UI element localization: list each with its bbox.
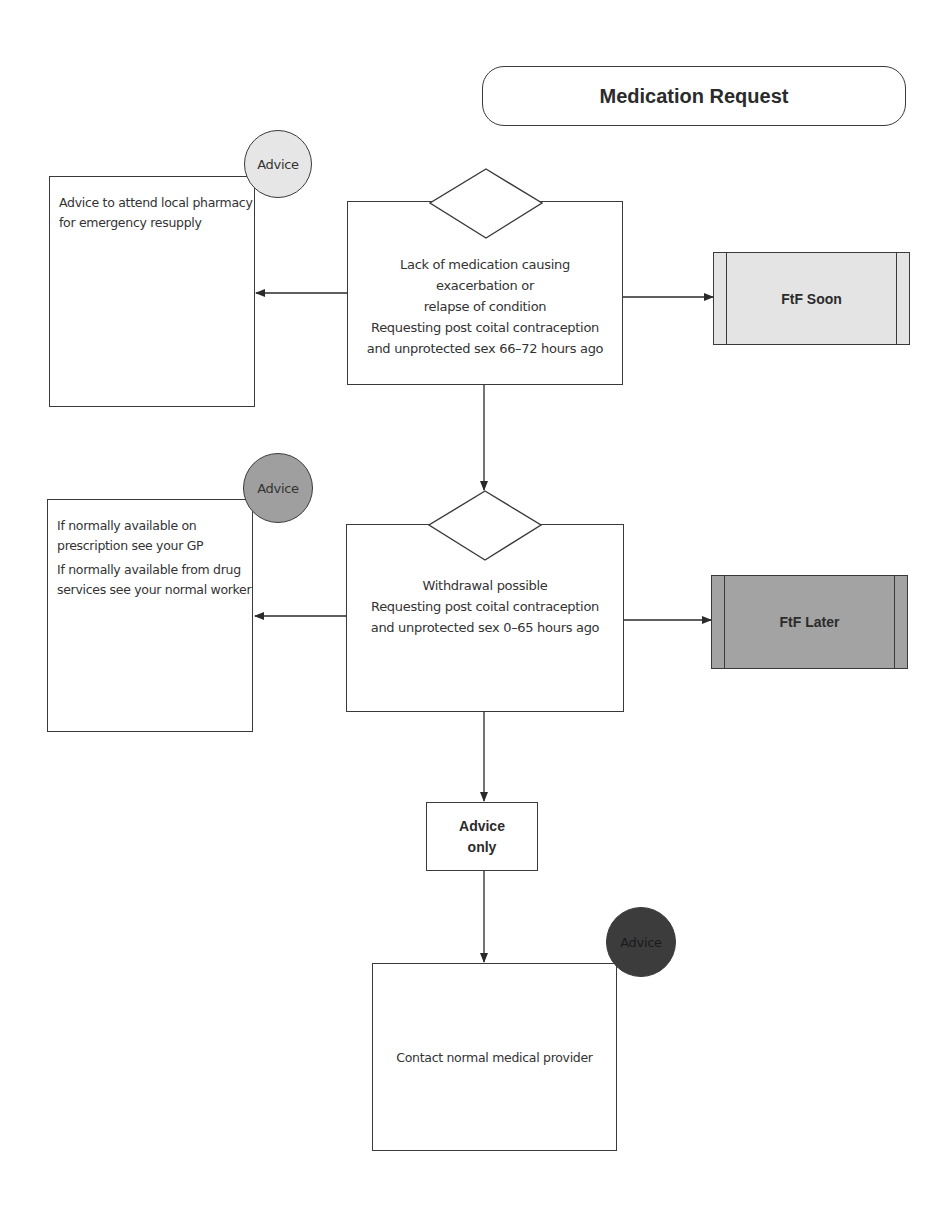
advice-paragraph: Advice to attend local pharmacy for emer… xyxy=(59,193,254,233)
advice-badge-label: Advice xyxy=(257,157,299,172)
advice-badge-light: Advice xyxy=(244,130,312,198)
advice-box-pharmacy-text: Advice to attend local pharmacy for emer… xyxy=(50,177,254,233)
decision-diamond-icon xyxy=(428,168,544,240)
decision-box-urgent-text: Lack of medication causing exacerbation … xyxy=(348,254,622,359)
flowchart-title: Medication Request xyxy=(482,66,906,126)
outcome-ftf-later: FtF Later xyxy=(711,575,908,669)
process-bar-left xyxy=(724,576,725,668)
decision-line: Requesting post coital contraception xyxy=(348,317,622,338)
decision-line: and unprotected sex 0–65 hours ago xyxy=(347,617,623,638)
process-bar-left xyxy=(726,253,727,344)
advice-badge-label: Advice xyxy=(620,935,662,950)
decision-line: exacerbation or xyxy=(348,275,622,296)
final-advice-box: Contact normal medical provider xyxy=(372,963,617,1151)
advice-paragraph: If normally available on prescription se… xyxy=(57,516,252,556)
advice-box-gp-or-worker-text: If normally available on prescription se… xyxy=(48,500,252,600)
outcome-ftf-later-label: FtF Later xyxy=(780,614,840,630)
final-advice-text: Contact normal medical provider xyxy=(396,1050,592,1065)
decision-diamond-icon xyxy=(427,490,543,562)
outcome-ftf-soon: FtF Soon xyxy=(713,252,910,345)
advice-only-line: Advice xyxy=(459,816,505,837)
decision-line: Requesting post coital contraception xyxy=(347,596,623,617)
process-bar-right xyxy=(894,576,895,668)
decision-line: relapse of condition xyxy=(348,296,622,317)
flowchart-title-text: Medication Request xyxy=(600,85,789,108)
advice-badge-dark: Advice xyxy=(606,907,676,977)
advice-only-line: only xyxy=(459,837,505,858)
decision-line: Lack of medication causing xyxy=(348,254,622,275)
advice-box-gp-or-worker: If normally available on prescription se… xyxy=(47,499,253,732)
advice-paragraph: If normally available from drug services… xyxy=(57,560,252,600)
advice-badge-medium: Advice xyxy=(243,453,313,523)
decision-box-later-text: Withdrawal possible Requesting post coit… xyxy=(347,575,623,638)
outcome-ftf-soon-label: FtF Soon xyxy=(781,291,842,307)
process-bar-right xyxy=(896,253,897,344)
advice-box-pharmacy: Advice to attend local pharmacy for emer… xyxy=(49,176,255,407)
advice-badge-label: Advice xyxy=(257,481,299,496)
advice-only-text: Advice only xyxy=(459,816,505,858)
decision-line: Withdrawal possible xyxy=(347,575,623,596)
advice-only-box: Advice only xyxy=(426,802,538,871)
decision-line: and unprotected sex 66–72 hours ago xyxy=(348,338,622,359)
